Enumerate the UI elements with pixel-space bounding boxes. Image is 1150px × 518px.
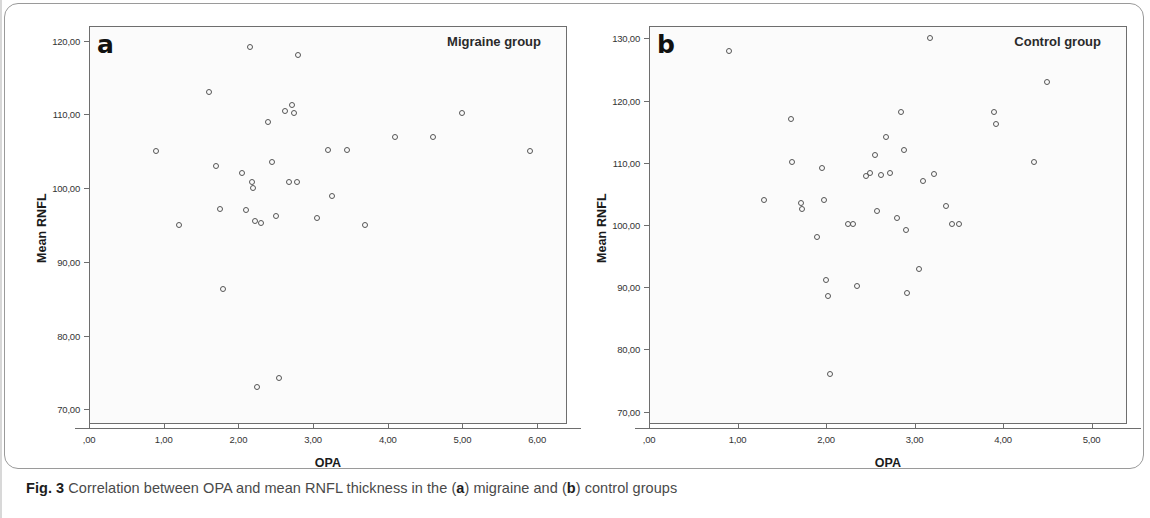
panel-label-a: a (97, 32, 114, 57)
data-point (258, 220, 264, 226)
x-axis-line (75, 428, 581, 429)
data-point (239, 170, 245, 176)
data-point (392, 134, 398, 140)
data-point (291, 110, 297, 116)
data-point (527, 148, 533, 154)
data-point (904, 290, 910, 296)
data-point (1044, 79, 1050, 85)
y-axis-tick-mark (84, 114, 89, 115)
y-axis-tick-label: 90,00 (57, 256, 80, 267)
data-point (894, 215, 900, 221)
y-axis-tick-mark (644, 412, 649, 413)
y-axis-tick-mark (84, 262, 89, 263)
y-axis-tick-label: 70,00 (57, 404, 80, 415)
data-point (850, 221, 856, 227)
data-point (269, 159, 275, 165)
x-axis-tick-label: 5,00 (1083, 434, 1101, 445)
data-point (789, 159, 795, 165)
y-axis-tick-mark (84, 41, 89, 42)
data-point (206, 89, 212, 95)
caption-bold-b: b (567, 480, 576, 496)
caption-text-part-1: Correlation between OPA and mean RNFL th… (64, 480, 456, 496)
y-axis-tick-mark (644, 349, 649, 350)
data-point (931, 171, 937, 177)
caption-text-part-3: ) control groups (576, 480, 678, 496)
x-axis-tick-label: 3,00 (304, 434, 322, 445)
data-point (854, 283, 860, 289)
data-point (814, 234, 820, 240)
data-point (825, 293, 831, 299)
y-axis-tick-mark (644, 101, 649, 102)
y-axis-tick-mark (644, 38, 649, 39)
y-axis-tick-mark (644, 225, 649, 226)
x-axis-title-b: OPA (649, 456, 1127, 470)
data-point (153, 148, 159, 154)
x-axis-title-a: OPA (89, 456, 567, 470)
data-point (273, 213, 279, 219)
data-point (956, 221, 962, 227)
y-axis-tick-mark (84, 188, 89, 189)
data-point (867, 170, 873, 176)
data-point (827, 371, 833, 377)
caption-figure-number: Fig. 3 (26, 480, 64, 496)
y-axis-tick-label: 100,00 (52, 183, 80, 194)
figure-caption: Fig. 3 Correlation between OPA and mean … (26, 480, 1126, 496)
y-axis-tick-label: 100,00 (612, 220, 640, 231)
data-point (247, 44, 253, 50)
data-point (289, 102, 295, 108)
data-point (788, 116, 794, 122)
data-point (903, 227, 909, 233)
x-axis-tick-label: ,00 (643, 434, 656, 445)
plot-title-b: Control group (931, 34, 1101, 49)
data-point (823, 277, 829, 283)
data-point (927, 35, 933, 41)
data-point (176, 222, 182, 228)
caption-text-part-2: ) migraine and ( (464, 480, 566, 496)
data-point (220, 286, 226, 292)
x-axis-tick-label: 1,00 (155, 434, 173, 445)
data-point (459, 110, 465, 116)
x-axis-tick-label: 4,00 (994, 434, 1012, 445)
data-point (920, 178, 926, 184)
data-point (991, 109, 997, 115)
data-point (325, 147, 331, 153)
y-axis-tick-mark (644, 287, 649, 288)
data-point (821, 197, 827, 203)
data-point (217, 206, 223, 212)
data-point (761, 197, 767, 203)
data-point (243, 207, 249, 213)
y-axis-tick-label: 130,00 (612, 33, 640, 44)
data-point (872, 152, 878, 158)
x-axis-tick-label: 3,00 (906, 434, 924, 445)
y-axis-tick-label: 80,00 (57, 330, 80, 341)
x-axis-tick-label: ,00 (83, 434, 96, 445)
data-point (883, 134, 889, 140)
plot-area-a (89, 26, 567, 424)
y-axis-tick-label: 120,00 (612, 95, 640, 106)
data-point (329, 193, 335, 199)
y-axis-title-a: Mean RNFL (35, 193, 49, 263)
data-point (943, 203, 949, 209)
data-point (887, 170, 893, 176)
chart-panel-a: Mean RNFL a Migraine group OPA 70,0080,0… (5, 4, 585, 470)
x-axis-tick-label: 1,00 (729, 434, 747, 445)
data-point (282, 108, 288, 114)
data-point (878, 172, 884, 178)
figure-frame: Mean RNFL a Migraine group OPA 70,0080,0… (4, 3, 1144, 469)
y-axis-tick-label: 80,00 (617, 344, 640, 355)
data-point (430, 134, 436, 140)
y-axis-tick-label: 120,00 (52, 35, 80, 46)
y-axis-tick-label: 90,00 (617, 282, 640, 293)
data-point (726, 48, 732, 54)
plot-area-b (649, 26, 1127, 424)
data-point (916, 266, 922, 272)
data-point (286, 179, 292, 185)
data-point (819, 165, 825, 171)
data-point (276, 375, 282, 381)
y-axis-tick-mark (84, 409, 89, 410)
data-point (949, 221, 955, 227)
data-point (294, 179, 300, 185)
plot-title-a: Migraine group (371, 34, 541, 49)
x-axis-tick-label: 2,00 (817, 434, 835, 445)
y-axis-tick-label: 110,00 (53, 109, 80, 120)
